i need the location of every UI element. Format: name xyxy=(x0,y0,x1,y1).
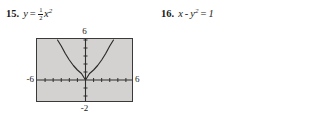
equation-16-lhs: x xyxy=(178,8,183,19)
graph-15-label-bottom: -2 xyxy=(81,104,89,113)
graph-15-label-top: 6 xyxy=(82,27,87,36)
graph-15-svg xyxy=(37,39,133,102)
graph-15: 6 -2 -6 6 xyxy=(36,38,133,102)
problem-16-equation: x-y2=1 xyxy=(178,8,214,19)
equation-15-fraction-numerator: 1 xyxy=(38,7,43,14)
equation-15-lhs: y xyxy=(23,8,28,19)
problem-16-number: 16. xyxy=(161,8,174,19)
equation-15-relation: = xyxy=(30,8,36,19)
problem-16: 16.x-y2=1 3 -3 -1 8 xyxy=(155,0,310,126)
worksheet-page: 15.y=12x2 6 -2 -6 6 xyxy=(0,0,310,126)
problem-15: 15.y=12x2 6 -2 -6 6 xyxy=(0,0,155,126)
problem-15-heading: 15.y=12x2 xyxy=(6,7,52,21)
equation-16-operator: - xyxy=(185,8,189,19)
graph-15-label-left: -6 xyxy=(27,75,35,84)
graph-15-screen xyxy=(36,38,133,102)
equation-15-fraction: 12 xyxy=(38,7,43,21)
equation-16-exponent: 2 xyxy=(195,6,199,14)
problem-16-heading: 16.x-y2=1 xyxy=(161,7,214,19)
equation-16-rhs: 1 xyxy=(208,8,213,19)
graph-15-label-right: 6 xyxy=(135,75,140,84)
equation-15-exponent: 2 xyxy=(49,7,53,15)
equation-15-fraction-denominator: 2 xyxy=(38,14,43,22)
problem-15-number: 15. xyxy=(6,8,19,19)
equation-16-relation: = xyxy=(200,8,206,19)
problem-15-equation: y=12x2 xyxy=(23,8,52,19)
